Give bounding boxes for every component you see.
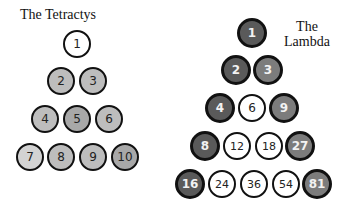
lambda-circle-4: 4 [205, 93, 235, 123]
tetractys-circle-3: 3 [79, 67, 107, 95]
lambda-circle-36: 36 [240, 170, 268, 198]
lambda-circle-12: 12 [223, 132, 251, 160]
lambda-circle-6: 6 [238, 94, 266, 122]
lambda-circle-18: 18 [255, 132, 283, 160]
tetractys-circle-4: 4 [31, 105, 59, 133]
lambda-circle-1: 1 [237, 18, 267, 48]
lambda-circle-54: 54 [272, 170, 300, 198]
tetractys-circle-5: 5 [63, 105, 91, 133]
tetractys-title: The Tetractys [8, 7, 108, 22]
lambda-circle-27: 27 [285, 131, 315, 161]
lambda-title-line2: Lambda [280, 34, 334, 49]
lambda-circle-8: 8 [190, 131, 220, 161]
tetractys-circle-10: 10 [111, 143, 139, 171]
tetractys-circle-9: 9 [79, 143, 107, 171]
lambda-circle-16: 16 [175, 169, 205, 199]
tetractys-circle-8: 8 [47, 143, 75, 171]
tetractys-circle-7: 7 [16, 143, 44, 171]
lambda-title-line1: The [282, 19, 332, 34]
tetractys-circle-1: 1 [63, 30, 91, 58]
lambda-circle-3: 3 [253, 55, 283, 85]
lambda-circle-81: 81 [302, 169, 332, 199]
tetractys-circle-2: 2 [47, 67, 75, 95]
tetractys-circle-6: 6 [95, 105, 123, 133]
lambda-circle-2: 2 [221, 55, 251, 85]
lambda-circle-9: 9 [269, 93, 299, 123]
lambda-circle-24: 24 [208, 170, 236, 198]
